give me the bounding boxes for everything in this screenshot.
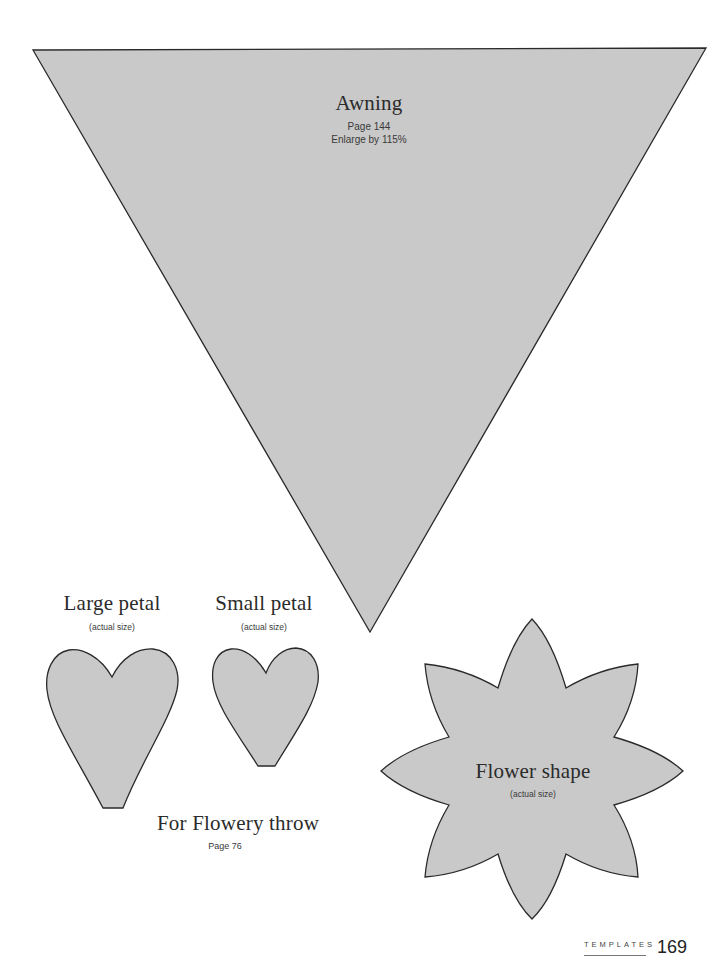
small-petal-note: (actual size) — [241, 622, 287, 632]
large-petal-shape — [47, 649, 178, 808]
flower-note: (actual size) — [510, 789, 556, 799]
flower-title: Flower shape — [476, 759, 591, 784]
footer-rule — [584, 955, 646, 956]
small-petal-shape — [213, 648, 319, 766]
small-petal-title: Small petal — [215, 591, 312, 616]
awning-page-ref: Page 144 — [348, 121, 391, 132]
large-petal-note: (actual size) — [89, 622, 135, 632]
petals-caption-title: For Flowery throw — [157, 811, 319, 836]
large-petal-title: Large petal — [64, 591, 161, 616]
template-shapes — [0, 0, 728, 974]
awning-enlarge-note: Enlarge by 115% — [331, 134, 406, 145]
petals-caption-page-ref: Page 76 — [208, 841, 242, 851]
footer-section-label: TEMPLATES — [584, 940, 655, 949]
awning-title: Awning — [336, 91, 403, 116]
page-number: 169 — [657, 937, 687, 958]
